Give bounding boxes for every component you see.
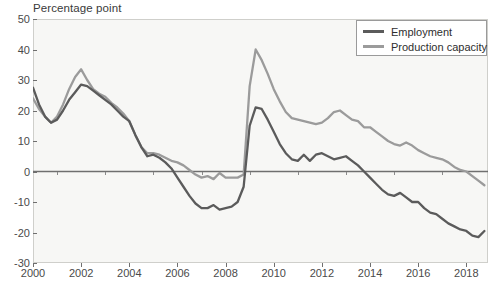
y-tick-label: -20 xyxy=(2,227,30,239)
chart-axis-title: Percentage point xyxy=(33,2,122,14)
y-tick-label: 40 xyxy=(2,44,30,56)
y-tick-mark xyxy=(33,80,37,81)
x-tick-mark xyxy=(81,263,82,267)
y-tick-mark xyxy=(33,141,37,142)
y-tick-mark xyxy=(33,172,37,173)
x-minor-tick-mark xyxy=(57,172,58,175)
x-tick-label: 2012 xyxy=(310,267,334,279)
x-minor-tick-mark xyxy=(202,172,203,175)
legend-item-production-capacity: Production capacity xyxy=(363,39,481,54)
x-tick-mark xyxy=(274,263,275,267)
x-tick-label: 2002 xyxy=(69,267,93,279)
y-tick-label: 10 xyxy=(2,135,30,147)
x-minor-tick-mark xyxy=(394,172,395,175)
x-tick-mark xyxy=(33,263,34,267)
x-tick-label: 2010 xyxy=(261,267,285,279)
x-tick-mark xyxy=(322,263,323,267)
x-tick-mark xyxy=(177,263,178,267)
x-tick-label: 2006 xyxy=(165,267,189,279)
legend-swatch-production-capacity xyxy=(363,45,384,48)
x-minor-tick-mark xyxy=(105,172,106,175)
y-tick-mark xyxy=(33,111,37,112)
chart-figure: Percentage point 50403020100-10-20-30 20… xyxy=(0,0,496,296)
x-tick-label: 2004 xyxy=(117,267,141,279)
chart-legend: Employment Production capacity xyxy=(356,20,487,56)
y-tick-mark xyxy=(33,19,37,20)
x-minor-tick-mark xyxy=(298,172,299,175)
legend-swatch-employment xyxy=(363,30,384,33)
y-tick-label: 30 xyxy=(2,74,30,86)
series-line-production-capacity xyxy=(33,50,484,186)
x-tick-label: 2008 xyxy=(213,267,237,279)
x-tick-mark xyxy=(370,263,371,267)
y-tick-label: -10 xyxy=(2,196,30,208)
x-tick-label: 2000 xyxy=(21,267,45,279)
x-minor-tick-mark xyxy=(250,172,251,175)
x-tick-label: 2018 xyxy=(454,267,478,279)
x-minor-tick-mark xyxy=(442,172,443,175)
x-tick-mark xyxy=(418,263,419,267)
y-tick-mark xyxy=(33,202,37,203)
x-tick-label: 2014 xyxy=(358,267,382,279)
y-tick-mark xyxy=(33,50,37,51)
y-tick-mark xyxy=(33,233,37,234)
y-tick-label: 0 xyxy=(2,166,30,178)
x-minor-tick-mark xyxy=(153,172,154,175)
x-minor-tick-mark xyxy=(346,172,347,175)
legend-label-production-capacity: Production capacity xyxy=(391,41,487,53)
x-tick-mark xyxy=(466,263,467,267)
legend-item-employment: Employment xyxy=(363,24,481,39)
x-tick-mark xyxy=(129,263,130,267)
x-tick-mark xyxy=(226,263,227,267)
y-axis-tick-labels: 50403020100-10-20-30 xyxy=(0,0,30,296)
x-tick-label: 2016 xyxy=(406,267,430,279)
y-tick-label: 20 xyxy=(2,105,30,117)
legend-label-employment: Employment xyxy=(391,26,452,38)
series-lines xyxy=(33,50,484,238)
series-line-employment xyxy=(33,85,484,237)
y-tick-label: 50 xyxy=(2,13,30,25)
